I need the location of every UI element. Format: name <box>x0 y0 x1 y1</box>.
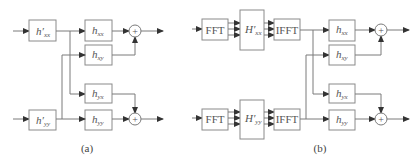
caption-b: (b) <box>314 142 327 155</box>
caption-a: (a) <box>81 142 94 155</box>
fft-bottom-label: FFT <box>206 113 225 125</box>
ifft-bottom-label: IFFT <box>276 113 299 125</box>
panel-a: h′xx hxx hxy hyx hyy h′yy + <box>13 20 163 155</box>
fft-top-label: FFT <box>206 24 225 36</box>
ifft-top-label: IFFT <box>276 24 299 36</box>
summer-y-symbol: + <box>132 114 138 125</box>
panel-b: FFT H′xx IFFT FFT H′yy IFFT hxx <box>192 10 409 155</box>
summer-x-symbol: + <box>132 26 138 37</box>
mimo-equalizer-diagram: h′xx hxx hxy hyx hyy h′yy + <box>0 0 414 164</box>
summer-y-symbol: + <box>378 114 384 125</box>
summer-x-symbol: + <box>378 25 384 36</box>
